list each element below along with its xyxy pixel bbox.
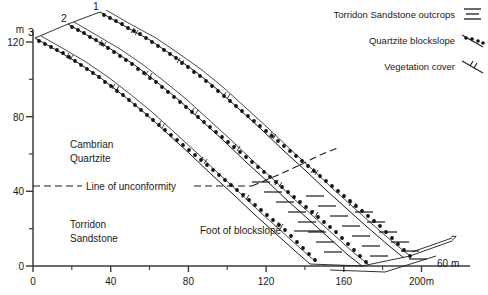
y-tick-label-40: 40 [13, 186, 25, 197]
x-tick-label-80: 80 [183, 276, 195, 287]
x-tick-label-40: 40 [105, 276, 117, 287]
crest-label-2: 2 [61, 12, 67, 24]
spacing-label: 60 m [437, 258, 459, 269]
geological-cross-section-figure: 120 80 40 0 m 0 40 80 120 160 200m [0, 0, 488, 295]
cambrian-quartzite-label-line2: Quartzite [70, 153, 111, 164]
crest-label-1: 1 [93, 0, 99, 12]
cambrian-quartzite-label-line1: Cambrian [70, 139, 113, 150]
x-tick-label-200: 200m [409, 276, 434, 287]
x-tick-label-0: 0 [30, 276, 36, 287]
legend-label-vegetation-cover: Vegetation cover [384, 61, 455, 72]
x-tick-label-120: 120 [258, 276, 275, 287]
x-tick-label-160: 160 [335, 276, 352, 287]
unconformity-label: Line of unconformity [86, 181, 176, 192]
y-axis-unit-label: m [16, 24, 24, 35]
foot-of-blockslope-label: Foot of blockslope [200, 225, 282, 236]
y-tick-label-120: 120 [7, 37, 24, 48]
legend-label-quartzite-blockslope: Quartzite blockslope [369, 35, 455, 46]
torridon-sandstone-label-line2: Sandstone [70, 233, 118, 244]
y-tick-label-0: 0 [18, 261, 24, 272]
crest-label-3: 3 [28, 26, 34, 38]
torridon-sandstone-label-line1: Torridon [70, 219, 106, 230]
legend-label-torridon-sandstone-outcrops: Torridon Sandstone outcrops [334, 9, 456, 20]
y-tick-label-80: 80 [13, 112, 25, 123]
